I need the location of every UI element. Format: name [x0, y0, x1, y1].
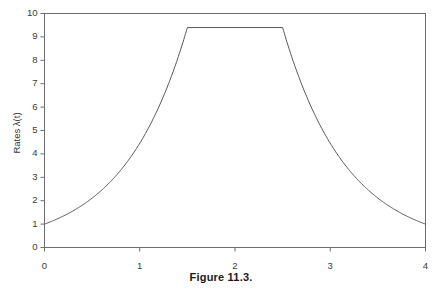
x-axis-ticks: [45, 248, 426, 252]
y-tick-label: 3: [32, 171, 37, 182]
y-tick-label: 6: [32, 101, 37, 112]
rate-function-curve: [45, 28, 426, 225]
x-tick-label: 3: [328, 260, 333, 271]
y-tick-label: 9: [32, 30, 37, 41]
x-tick-label: 1: [137, 260, 142, 271]
rates-line-chart: 012345678910 01234 Rates λ(t): [0, 0, 442, 299]
x-axis-tick-labels: 01234: [42, 260, 428, 271]
y-axis-ticks: [41, 14, 45, 248]
y-tick-label: 1: [32, 218, 37, 229]
plot-frame: [45, 14, 426, 248]
y-tick-label: 5: [32, 124, 37, 135]
x-tick-label: 2: [232, 260, 237, 271]
y-tick-label: 7: [32, 77, 37, 88]
figure-caption: Figure 11.3.: [0, 271, 442, 283]
y-axis-tick-labels: 012345678910: [27, 7, 38, 252]
y-axis-title: Rates λ(t): [11, 112, 22, 153]
y-tick-label: 10: [27, 7, 38, 18]
figure-container: 012345678910 01234 Rates λ(t) Figure 11.…: [0, 0, 442, 299]
x-tick-label: 4: [423, 260, 428, 271]
y-tick-label: 8: [32, 54, 37, 65]
y-tick-label: 0: [32, 241, 37, 252]
y-tick-label: 4: [32, 147, 37, 158]
y-tick-label: 2: [32, 194, 37, 205]
x-tick-label: 0: [42, 260, 47, 271]
